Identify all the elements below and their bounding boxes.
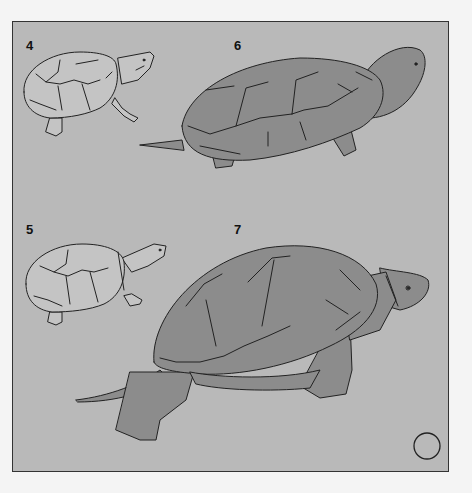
turtle-5-outline (26, 244, 166, 325)
illustration (0, 0, 472, 493)
turtle-4-outline (24, 52, 154, 136)
turtle-6-filled (140, 47, 425, 168)
circle-marker (414, 433, 440, 459)
turtle-7-filled (76, 246, 429, 440)
